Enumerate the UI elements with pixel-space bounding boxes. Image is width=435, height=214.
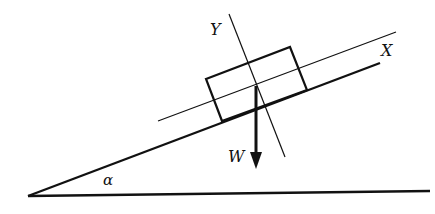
x-axis-label: X [379,41,393,60]
x-axis-line [158,32,396,121]
inclined-plane-diagram: Y X W α [0,0,435,214]
weight-label: W [228,147,246,166]
ground-line [28,191,430,196]
angle-label: α [103,171,113,189]
weight-arrowhead-icon [250,152,262,169]
y-axis-label: Y [210,20,222,39]
incline-surface [28,63,380,196]
